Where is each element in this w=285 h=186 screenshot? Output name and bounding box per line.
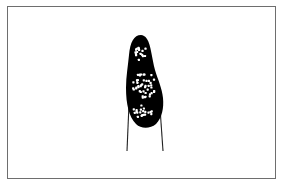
granule — [148, 85, 150, 87]
granule — [150, 86, 152, 88]
granule — [149, 95, 151, 97]
granule — [142, 97, 144, 99]
granule — [153, 91, 155, 93]
granule — [153, 79, 155, 81]
granule — [135, 49, 137, 51]
granule — [136, 82, 138, 84]
granule — [150, 84, 152, 86]
granule — [134, 112, 136, 114]
granule — [151, 92, 153, 94]
granule — [144, 48, 146, 50]
granule — [144, 114, 146, 116]
granule — [140, 73, 142, 75]
granule — [142, 90, 144, 92]
granule — [147, 112, 149, 114]
granule — [136, 79, 138, 81]
granule — [137, 85, 139, 87]
granule — [144, 55, 146, 57]
granule — [140, 91, 142, 93]
granule — [142, 110, 144, 112]
granule — [137, 116, 139, 118]
granule — [144, 96, 146, 98]
granule — [140, 109, 142, 111]
granule — [137, 74, 139, 76]
granule — [141, 50, 143, 52]
granule — [141, 114, 143, 116]
granule — [150, 82, 152, 84]
granule — [140, 84, 142, 86]
granule — [132, 81, 134, 83]
granule — [133, 108, 135, 110]
granule — [150, 74, 152, 76]
granule — [145, 80, 147, 82]
granule — [136, 51, 138, 53]
granule — [132, 87, 134, 89]
granule — [144, 85, 146, 87]
granule — [136, 112, 138, 114]
granule — [143, 74, 145, 76]
granule — [142, 55, 144, 57]
granule — [143, 107, 145, 109]
granule — [144, 111, 146, 113]
granule — [140, 53, 142, 55]
granule — [150, 111, 152, 113]
cell-diagram — [0, 0, 285, 186]
granule — [136, 109, 138, 111]
granule — [147, 89, 149, 91]
granule — [137, 47, 139, 49]
granule — [135, 87, 137, 89]
granule — [145, 92, 147, 94]
granule — [143, 79, 145, 81]
granule — [135, 54, 137, 56]
granule — [139, 111, 141, 113]
granule — [148, 80, 150, 82]
granule — [140, 104, 142, 106]
granule — [150, 113, 152, 115]
left-stalk-line — [127, 104, 129, 151]
granule — [138, 59, 140, 61]
